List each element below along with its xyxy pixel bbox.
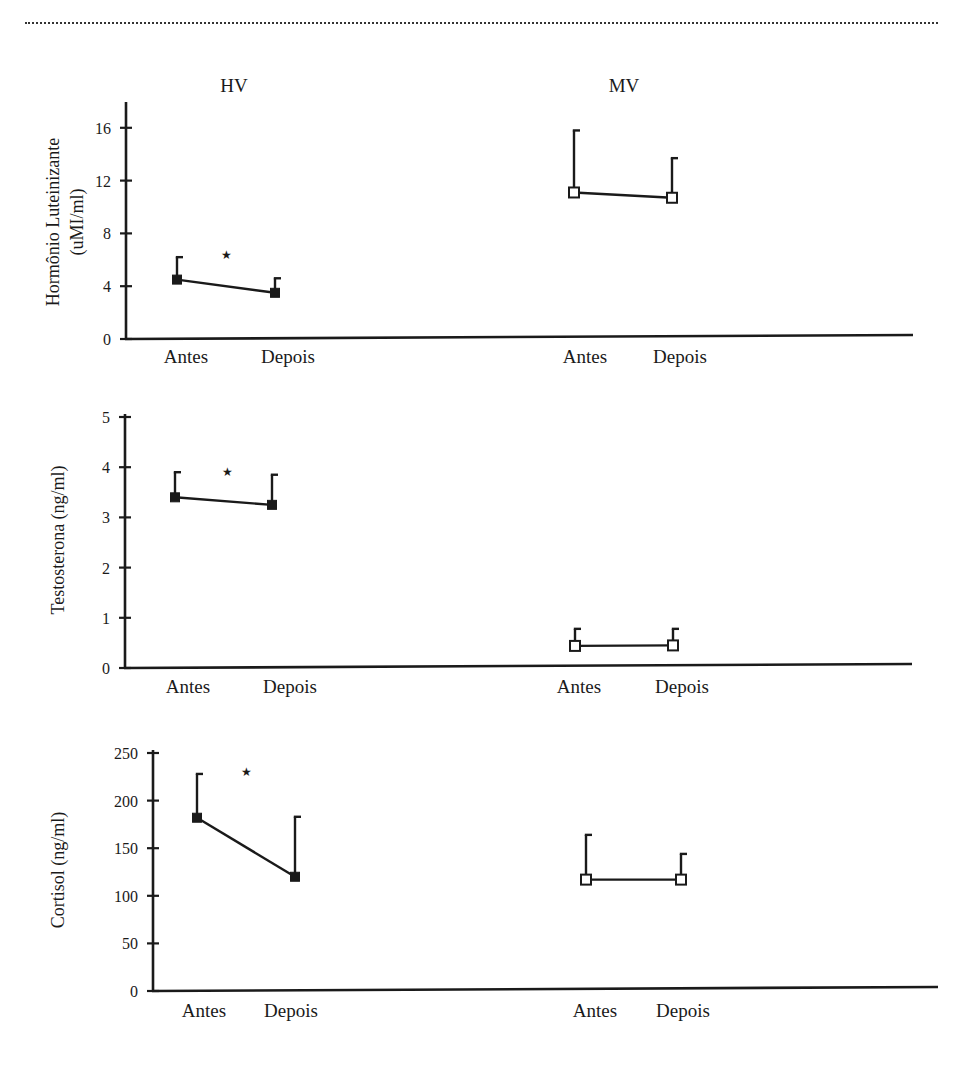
x-tick-label: Antes: [573, 1000, 617, 1021]
open-square-marker-icon: [676, 875, 686, 885]
open-square-marker-icon: [570, 641, 580, 651]
x-axis: [125, 335, 913, 339]
mv-series-line: [574, 192, 672, 197]
x-tick-label: Antes: [166, 676, 210, 697]
y-tick-label: 5: [102, 409, 110, 426]
filled-square-marker-icon: [291, 872, 300, 881]
y-tick-label: 2: [102, 560, 110, 577]
chart-testosterone: 012345Testosterona (ng/ml)AntesDepois★An…: [48, 409, 912, 697]
open-square-marker-icon: [667, 193, 677, 203]
y-tick-label: 150: [114, 840, 138, 857]
hv-series-line: [175, 497, 272, 505]
filled-square-marker-icon: [171, 493, 180, 502]
open-square-marker-icon: [668, 640, 678, 650]
x-tick-label: Antes: [182, 1000, 226, 1021]
mv-series-line: [575, 645, 673, 646]
filled-square-marker-icon: [193, 813, 202, 822]
y-axis-label: (uMI/ml): [67, 189, 88, 256]
x-tick-label: Depois: [261, 346, 315, 367]
filled-square-marker-icon: [268, 500, 277, 509]
y-tick-label: 0: [102, 660, 110, 677]
y-tick-label: 12: [95, 173, 111, 190]
y-tick-label: 50: [122, 935, 138, 952]
y-tick-label: 4: [102, 459, 110, 476]
y-axis-label: Cortisol (ng/ml): [48, 812, 69, 929]
x-tick-label: Depois: [264, 1000, 318, 1021]
y-tick-label: 200: [114, 793, 138, 810]
y-tick-label: 0: [103, 331, 111, 348]
x-axis: [152, 987, 938, 991]
y-axis-label: Hormônio Luteinizante: [43, 138, 63, 306]
x-tick-label: Depois: [653, 346, 707, 367]
x-tick-label: Antes: [557, 676, 601, 697]
hormone-charts: 0481216Hormônio Luteinizante(uMI/ml)Ante…: [0, 0, 973, 1080]
x-tick-label: Depois: [263, 676, 317, 697]
significance-star-icon: ★: [221, 248, 232, 262]
x-axis: [124, 664, 912, 668]
y-tick-label: 3: [102, 509, 110, 526]
y-axis-label: Testosterona (ng/ml): [48, 465, 69, 614]
x-tick-label: Depois: [656, 1000, 710, 1021]
y-tick-label: 16: [95, 120, 111, 137]
open-square-marker-icon: [569, 187, 579, 197]
y-tick-label: 4: [103, 278, 111, 295]
significance-star-icon: ★: [241, 765, 252, 779]
filled-square-marker-icon: [173, 275, 182, 284]
y-tick-label: 0: [130, 983, 138, 1000]
x-tick-label: Antes: [563, 346, 607, 367]
y-tick-label: 1: [102, 610, 110, 627]
chart-lh: 0481216Hormônio Luteinizante(uMI/ml)Ante…: [43, 102, 913, 367]
hv-series-line: [177, 280, 275, 293]
filled-square-marker-icon: [271, 288, 280, 297]
x-tick-label: Depois: [655, 676, 709, 697]
y-tick-label: 8: [103, 225, 111, 242]
x-tick-label: Antes: [164, 346, 208, 367]
open-square-marker-icon: [581, 875, 591, 885]
hv-series-line: [197, 818, 295, 877]
y-tick-label: 250: [114, 745, 138, 762]
y-tick-label: 100: [114, 888, 138, 905]
chart-cortisol: 050100150200250Cortisol (ng/ml)AntesDepo…: [48, 745, 938, 1021]
significance-star-icon: ★: [222, 465, 233, 479]
